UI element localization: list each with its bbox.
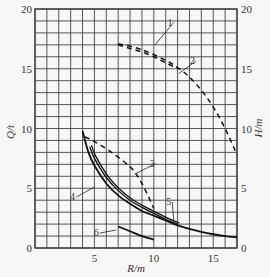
y-left-tick-label: 15 — [21, 63, 33, 75]
curve-label-5: 5 — [166, 196, 171, 207]
curve-5 — [83, 131, 237, 237]
grid — [35, 9, 237, 248]
y-axis-right-label: H/m — [252, 118, 264, 138]
curve-6 — [118, 226, 154, 239]
y-right-tick-label: 5 — [241, 182, 247, 194]
chart: 123456 510150510152005101520 R/m Q/t H/m — [0, 0, 270, 277]
y-left-tick-label: 10 — [21, 123, 33, 135]
leader-line-6 — [100, 230, 116, 233]
y-left-tick-label: 20 — [21, 3, 33, 15]
y-right-tick-label: 15 — [241, 63, 253, 75]
curve-label-6: 6 — [94, 227, 99, 238]
y-right-tick-label: 10 — [241, 123, 253, 135]
y-right-tick-label: 20 — [241, 3, 253, 15]
curve-label-2: 2 — [190, 55, 195, 66]
curves — [83, 44, 237, 240]
curve-4 — [91, 145, 179, 223]
x-axis-label: R/m — [126, 262, 145, 274]
y-left-tick-label: 0 — [27, 242, 33, 254]
y-axis-left-label: Q/t — [4, 124, 16, 139]
x-tick-label: 10 — [148, 252, 160, 264]
curve-3 — [85, 137, 154, 209]
curve-label-1: 1 — [167, 17, 172, 28]
x-tick-label: 15 — [208, 252, 220, 264]
curve-label-3: 3 — [150, 158, 155, 169]
curve-label-4: 4 — [70, 191, 75, 202]
x-tick-label: 5 — [92, 252, 98, 264]
y-right-tick-label: 0 — [241, 242, 247, 254]
axis-ticks: 510150510152005101520 — [21, 3, 253, 264]
y-left-tick-label: 5 — [27, 182, 33, 194]
